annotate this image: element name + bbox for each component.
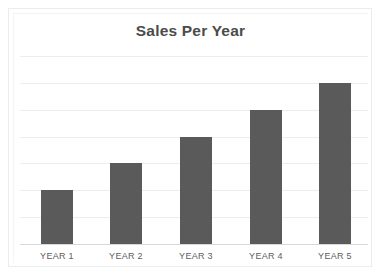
bar-year-1[interactable] <box>41 190 73 244</box>
category-label-1: YEAR 1 <box>22 249 92 263</box>
axis-baseline <box>20 244 368 245</box>
chart-title: Sales Per Year <box>0 21 381 41</box>
gridline-7 <box>20 56 368 57</box>
chart-figure: Sales Per Year YEAR 1YEAR 2YEAR 3YEAR 4Y… <box>0 0 381 276</box>
bar-year-4[interactable] <box>250 110 282 244</box>
gridline-5 <box>20 110 368 111</box>
category-label-3: YEAR 3 <box>161 249 231 263</box>
category-axis-labels: YEAR 1YEAR 2YEAR 3YEAR 4YEAR 5 <box>0 249 381 265</box>
plot-area <box>20 56 368 244</box>
bar-year-2[interactable] <box>110 163 142 244</box>
category-label-5: YEAR 5 <box>300 249 370 263</box>
category-label-2: YEAR 2 <box>91 249 161 263</box>
category-label-4: YEAR 4 <box>231 249 301 263</box>
bar-year-5[interactable] <box>319 83 351 244</box>
bar-year-3[interactable] <box>180 137 212 244</box>
gridline-6 <box>20 83 368 84</box>
